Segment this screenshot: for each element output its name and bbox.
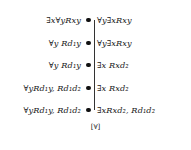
row-right-formula: ∀y∃xRxy bbox=[91, 16, 191, 24]
chain-rows: ∃x∀yRxy ∀y∃xRxy ∀y Rd₁y ∀y∃xRxy ∀y Rd₁y … bbox=[0, 9, 191, 122]
row-left-formula: ∀y Rd₁y bbox=[0, 61, 86, 69]
row-left-formula: ∀yRd₁y, Rd₁d₂ bbox=[0, 84, 86, 92]
row-left-formula: ∀yRd₁y, Rd₁d₂ bbox=[0, 106, 86, 114]
chain-node[interactable] bbox=[86, 41, 90, 45]
chain-spine-line bbox=[94, 20, 95, 110]
row-left-formula: ∀y Rd₁y bbox=[0, 39, 86, 47]
chain-row: ∀y Rd₁y ∃x Rxd₂ bbox=[0, 54, 191, 77]
row-right-formula: ∀y∃xRxy bbox=[91, 39, 191, 47]
logic-tableau-figure: ∃x∀yRxy ∀y∃xRxy ∀y Rd₁y ∀y∃xRxy ∀y Rd₁y … bbox=[0, 0, 191, 150]
row-right-formula: ∃x Rxd₂ bbox=[91, 84, 191, 92]
chain-row: ∀yRd₁y, Rd₁d₂ ∃xRxd₂, Rd₁d₂ bbox=[0, 99, 191, 122]
row-right-formula: ∃xRxd₂, Rd₁d₂ bbox=[91, 106, 191, 114]
row-right-formula: ∃x Rxd₂ bbox=[91, 61, 191, 69]
chain-row: ∃x∀yRxy ∀y∃xRxy bbox=[0, 9, 191, 32]
chain-node[interactable] bbox=[86, 63, 90, 67]
node-slot bbox=[86, 41, 91, 45]
chain-row: ∀y Rd₁y ∀y∃xRxy bbox=[0, 32, 191, 55]
chain-row: ∀yRd₁y, Rd₁d₂ ∃x Rxd₂ bbox=[0, 77, 191, 100]
bottom-bracket-label: [∀] bbox=[0, 124, 191, 131]
node-slot bbox=[86, 86, 91, 90]
chain-node[interactable] bbox=[86, 18, 90, 22]
row-left-formula: ∃x∀yRxy bbox=[0, 16, 86, 24]
chain-node[interactable] bbox=[86, 86, 90, 90]
chain-node[interactable] bbox=[86, 108, 90, 112]
